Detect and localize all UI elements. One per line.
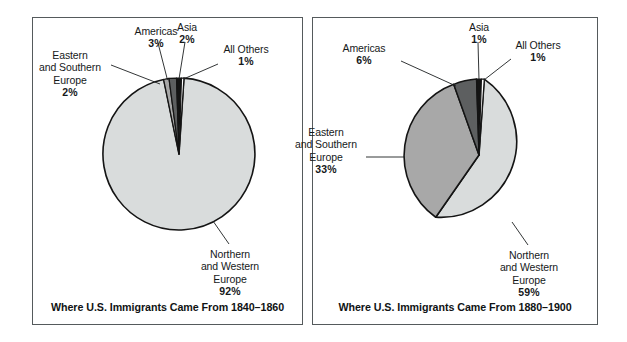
leader-line-eastern-southern-europe bbox=[111, 65, 160, 84]
label-line-2: and Western bbox=[500, 261, 558, 273]
chart-caption-1840-1860: Where U.S. Immigrants Came From 1840–186… bbox=[33, 301, 302, 313]
pie-slices-1880-1900 bbox=[404, 79, 517, 217]
label-line-1: All Others bbox=[515, 39, 560, 51]
label-line-3: Europe bbox=[53, 74, 86, 86]
label-line-2: and Southern bbox=[295, 138, 357, 150]
label-percent: 92% bbox=[219, 285, 240, 297]
label-percent: 2% bbox=[179, 33, 194, 45]
label-northern-western-europe: Northern and Western Europe 92% bbox=[188, 248, 272, 298]
label-percent: 6% bbox=[356, 54, 371, 66]
label-percent: 1% bbox=[238, 55, 253, 67]
label-percent: 3% bbox=[148, 37, 163, 49]
label-percent: 59% bbox=[518, 286, 539, 298]
label-line-1: Eastern bbox=[308, 126, 344, 138]
label-line-1: Northern bbox=[210, 248, 250, 260]
label-line-2: and Western bbox=[201, 260, 259, 272]
label-line-3: Europe bbox=[309, 151, 342, 163]
label-line-1: Asia bbox=[469, 21, 489, 33]
pie-slices-1840-1860 bbox=[103, 78, 255, 230]
label-all-others: All Others 1% bbox=[210, 43, 282, 68]
pie-chart-1880-1900: Americas 6% Asia 1% All Others 1% Easter… bbox=[313, 18, 597, 324]
label-northern-western-europe: Northern and Western Europe 59% bbox=[487, 249, 571, 299]
leader-line-northern-western-europe bbox=[512, 222, 528, 245]
chart-panel-1840-1860: Eastern and Southern Europe 2% Americas … bbox=[32, 17, 303, 325]
label-all-others: All Others 1% bbox=[502, 39, 574, 64]
label-percent: 2% bbox=[62, 86, 77, 98]
label-americas: Americas 6% bbox=[324, 42, 404, 67]
label-percent: 1% bbox=[471, 33, 486, 45]
chart-panel-1880-1900: Americas 6% Asia 1% All Others 1% Easter… bbox=[312, 17, 598, 325]
label-line-3: Europe bbox=[213, 273, 246, 285]
label-asia: Asia 2% bbox=[165, 21, 209, 46]
label-line-1: Eastern bbox=[52, 49, 88, 61]
label-line-3: Europe bbox=[512, 274, 545, 286]
label-percent: 1% bbox=[530, 51, 545, 63]
chart-caption-1880-1900: Where U.S. Immigrants Came From 1880–190… bbox=[313, 301, 597, 313]
label-line-1: Americas bbox=[343, 42, 386, 54]
label-line-1: All Others bbox=[223, 43, 268, 55]
leader-line-asia bbox=[478, 42, 479, 80]
label-percent: 33% bbox=[315, 163, 336, 175]
label-eastern-southern-europe: Eastern and Southern Europe 33% bbox=[286, 126, 366, 176]
leader-line-americas bbox=[401, 61, 456, 86]
label-line-1: Northern bbox=[509, 249, 549, 261]
figure-root: Eastern and Southern Europe 2% Americas … bbox=[0, 0, 627, 342]
label-line-1: Asia bbox=[177, 21, 197, 33]
pie-chart-1840-1860: Eastern and Southern Europe 2% Americas … bbox=[33, 18, 302, 324]
label-eastern-southern-europe: Eastern and Southern Europe 2% bbox=[29, 49, 111, 99]
label-line-2: and Southern bbox=[39, 61, 101, 73]
leader-line-northern-western-europe bbox=[213, 221, 229, 244]
label-asia: Asia 1% bbox=[457, 21, 501, 46]
